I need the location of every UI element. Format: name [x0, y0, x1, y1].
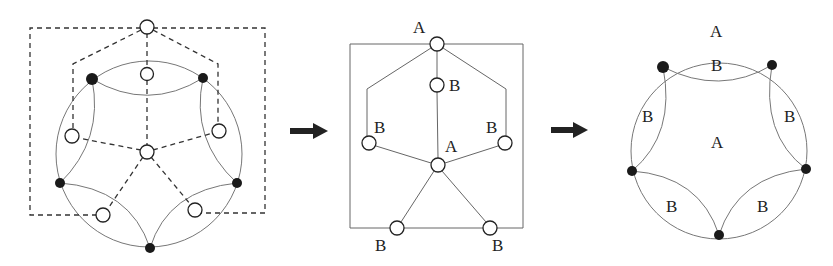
dashed-center-right [153, 133, 213, 150]
label-right: B [486, 118, 497, 137]
vertex-dot [86, 73, 98, 85]
edge [376, 146, 431, 163]
node-b-bottom-right [483, 221, 497, 235]
dashed-frame-right [153, 28, 265, 213]
dual-node [96, 208, 110, 222]
edge [437, 92, 438, 158]
node-b-left [362, 136, 376, 150]
label-top-lens: B [711, 56, 722, 75]
label-center: A [445, 137, 458, 156]
dashed-top-left [73, 30, 141, 129]
dashed-center-bottom-right [151, 157, 191, 205]
label-bottom-right: B [492, 236, 503, 255]
vertex-dot [145, 243, 155, 253]
edge [401, 171, 434, 222]
label-top: A [413, 18, 426, 37]
edge [442, 171, 486, 222]
dashed-top-right [153, 30, 218, 124]
label-right-lens: B [784, 107, 795, 126]
dual-node [188, 203, 202, 217]
dual-node [212, 124, 226, 138]
vertex-dot [801, 164, 811, 174]
dual-node [140, 20, 154, 34]
vertex-dot [714, 230, 724, 240]
figure: A B B B A B B A B B B A B B [0, 0, 833, 266]
node-b-right [498, 136, 512, 150]
node-a-center [431, 158, 445, 172]
arrow-right-icon [551, 122, 588, 138]
dashed-center-bottom-left [107, 157, 143, 210]
arrow-right-icon [290, 123, 328, 139]
label-inner-top: B [449, 76, 460, 95]
dual-node [141, 68, 154, 81]
label-left-lens: B [642, 107, 653, 126]
vertex-dot [198, 73, 208, 83]
node-a-top [430, 37, 444, 51]
dual-node [140, 145, 154, 159]
label-bottom-left: B [375, 236, 386, 255]
vertex-dot [55, 178, 65, 188]
node-b-bottom-left [390, 221, 404, 235]
dual-node [65, 129, 79, 143]
label-outer: A [710, 22, 723, 41]
label-bottom-right-lens: B [757, 197, 768, 216]
vertex-dot [657, 61, 669, 73]
label-center: A [711, 133, 724, 152]
panel-labeled-regions: A B B B A B B [627, 22, 811, 240]
vertex-dot [627, 166, 637, 176]
vertex-dot [232, 178, 242, 188]
label-left: B [374, 118, 385, 137]
panel-dual-graph: A B B B A B B [350, 18, 523, 255]
panel-dual-graph-overlay [30, 20, 265, 253]
vertex-dot [767, 60, 777, 70]
node-b-inner [430, 78, 444, 92]
label-bottom-left-lens: B [666, 197, 677, 216]
